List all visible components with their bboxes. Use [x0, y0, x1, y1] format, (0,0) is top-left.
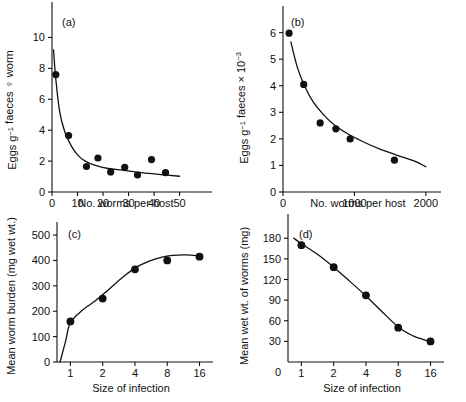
y-tick-label: 2	[270, 133, 276, 145]
x-tick-label: 4	[363, 367, 369, 379]
data-point	[332, 125, 339, 132]
data-point	[394, 324, 402, 332]
data-point	[298, 241, 306, 249]
y-tick-label: 100	[32, 331, 50, 343]
data-point	[107, 168, 114, 175]
y-tick-label: 4	[270, 80, 276, 92]
x-tick-label: 1	[67, 367, 73, 379]
panel-a-plot: 024681001020304050(a)No. worms per hostE…	[0, 0, 233, 210]
x-tick-label: 16	[424, 367, 436, 379]
y-tick-label: 10	[33, 31, 45, 43]
x-tick-label: 1	[298, 367, 304, 379]
fit-curve	[60, 255, 200, 362]
y-axis-title: Mean wet wt. of worms (mg)	[238, 227, 250, 365]
y-tick-label: 120	[263, 274, 281, 286]
data-point	[317, 119, 324, 126]
y-tick-label: 30	[269, 335, 281, 347]
y-axis-title: Eggs g−1 faeces × 10−3	[234, 52, 250, 164]
y-tick-label: 60	[269, 315, 281, 327]
x-tick-label: 8	[164, 367, 170, 379]
x-tick-label: 2	[100, 367, 106, 379]
y-tick-label: 180	[263, 232, 281, 244]
x-axis-title: Size of infection	[92, 382, 170, 394]
y-tick-label: 400	[32, 254, 50, 266]
y-tick-label: 6	[39, 93, 45, 105]
data-point	[300, 81, 307, 88]
x-tick-label: 4	[132, 367, 138, 379]
panel-letter: (b)	[291, 16, 304, 28]
data-point	[162, 169, 169, 176]
data-point	[427, 337, 435, 345]
data-point	[131, 265, 139, 273]
data-point	[65, 132, 72, 139]
x-tick-label: 8	[395, 367, 401, 379]
panel-a: 024681001020304050(a)No. worms per hostE…	[0, 0, 233, 210]
y-axis-title-text: Eggs g−1 faeces ♀ worm	[3, 50, 19, 170]
y-axis-title-text: Mean worm burden (mg wet wt.)	[5, 217, 17, 375]
fit-curve	[54, 50, 180, 176]
data-point	[330, 263, 338, 271]
y-tick-label: 150	[263, 253, 281, 265]
panel-letter: (a)	[62, 16, 75, 28]
x-tick-label: 2	[331, 367, 337, 379]
x-axis-title: Size of infection	[323, 382, 401, 394]
y-tick-label: 0	[44, 356, 50, 368]
data-point	[391, 157, 398, 164]
y-axis-title-text: Eggs g−1 faeces × 10−3	[234, 52, 250, 164]
panel-c: 0100200300400500124816(c)Size of infecti…	[0, 200, 233, 402]
data-point	[134, 171, 141, 178]
panel-b-plot: 0123456010002000(b)No. worms per hostEgg…	[233, 0, 466, 210]
data-point	[52, 71, 59, 78]
data-point	[121, 164, 128, 171]
y-tick-label: 8	[39, 62, 45, 74]
panel-d-plot: 3060901201501800124816(d)Size of infecti…	[233, 200, 466, 402]
x-tick-label: 0	[275, 366, 281, 378]
panel-letter: (d)	[299, 228, 312, 240]
y-tick-label: 5	[270, 53, 276, 65]
y-tick-label: 0	[270, 186, 276, 198]
data-point	[196, 253, 204, 261]
panel-d: 3060901201501800124816(d)Size of infecti…	[233, 200, 466, 402]
y-tick-label: 1	[270, 159, 276, 171]
y-tick-label: 0	[39, 186, 45, 198]
y-tick-label: 300	[32, 280, 50, 292]
data-point	[83, 163, 90, 170]
fit-curve	[294, 238, 431, 341]
data-point	[148, 156, 155, 163]
y-tick-label: 200	[32, 305, 50, 317]
y-axis-title: Mean worm burden (mg wet wt.)	[5, 217, 17, 375]
y-tick-label: 3	[270, 106, 276, 118]
panel-letter: (c)	[68, 228, 81, 240]
data-point	[347, 135, 354, 142]
data-point	[362, 291, 370, 299]
panel-c-plot: 0100200300400500124816(c)Size of infecti…	[0, 200, 233, 402]
data-point	[67, 317, 75, 325]
y-tick-label: 4	[39, 124, 45, 136]
figure-panel-grid: 024681001020304050(a)No. worms per hostE…	[0, 0, 466, 402]
y-tick-label: 500	[32, 229, 50, 241]
panel-b: 0123456010002000(b)No. worms per hostEgg…	[233, 0, 466, 210]
y-tick-label: 2	[39, 155, 45, 167]
data-point	[94, 154, 101, 161]
y-tick-label: 6	[270, 27, 276, 39]
x-tick-label: 16	[193, 367, 205, 379]
data-point	[285, 30, 292, 37]
y-tick-label: 90	[269, 294, 281, 306]
data-point	[99, 295, 107, 303]
data-point	[163, 257, 171, 265]
y-axis-title: Eggs g−1 faeces ♀ worm	[3, 50, 19, 170]
y-axis-title-text: Mean wet wt. of worms (mg)	[238, 227, 250, 365]
fit-curve	[291, 42, 426, 167]
